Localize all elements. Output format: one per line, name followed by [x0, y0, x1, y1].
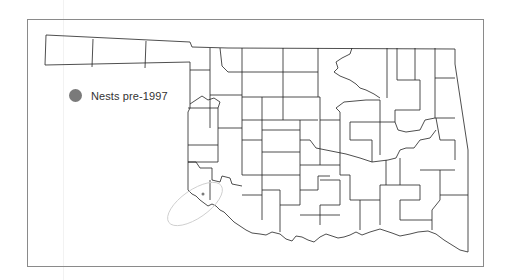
legend-label-nests-pre-1997: Nests pre-1997 [91, 90, 168, 102]
annotation-layer [0, 0, 508, 280]
hand-drawn-ellipse [161, 174, 229, 234]
nest-location-marker [202, 193, 205, 196]
nest-circle-icon [69, 89, 82, 102]
map-legend: Nests pre-1997 [69, 89, 168, 102]
